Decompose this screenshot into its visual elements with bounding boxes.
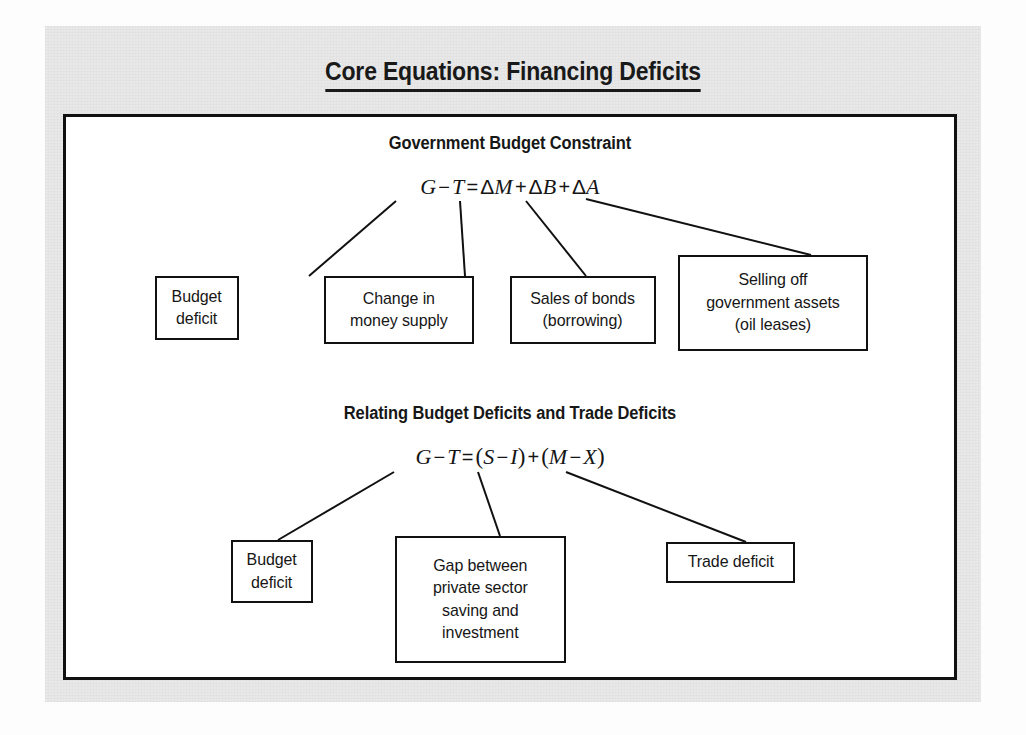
node-gap-line-3: saving and: [433, 600, 528, 622]
node-budget-deficit-2-line-2: deficit: [247, 572, 297, 594]
node-gap-line-2: private sector: [433, 577, 528, 599]
node-budget-deficit-2-line-1: Budget: [247, 549, 297, 571]
node-change-money-supply-line-2: money supply: [350, 310, 448, 332]
figure-frame: Government Budget Constraint G−T=ΔM+ΔB+Δ…: [63, 114, 957, 680]
node-trade-deficit: Trade deficit: [666, 542, 795, 583]
node-sales-of-bonds-line-1: Sales of bonds: [531, 288, 636, 310]
node-gap-line-4: investment: [433, 622, 528, 644]
figure-title: Core Equations: Financing Deficits: [82, 57, 943, 92]
node-selling-assets-line-1: Selling off: [706, 269, 840, 291]
node-gap-line-1: Gap between: [433, 555, 528, 577]
node-change-money-supply-line-1: Change in: [350, 288, 448, 310]
connector-m-x-to-trade-deficit: [566, 472, 746, 542]
node-sales-of-bonds-line-2: (borrowing): [531, 310, 636, 332]
connector-s-i-to-gap: [478, 472, 500, 536]
connector-da-to-assets: [586, 199, 811, 255]
connector-dm-to-money-supply: [460, 201, 465, 276]
figure-title-text: Core Equations: Financing Deficits: [325, 57, 701, 92]
node-budget-deficit-1-line-1: Budget: [172, 286, 222, 308]
node-change-money-supply: Change in money supply: [324, 276, 474, 344]
connector-g-t-to-budget-deficit: [309, 201, 396, 276]
node-budget-deficit-1: Budget deficit: [155, 276, 239, 340]
node-selling-assets-line-3: (oil leases): [706, 314, 840, 336]
node-sales-of-bonds: Sales of bonds (borrowing): [510, 276, 656, 344]
diagram-canvas: Government Budget Constraint G−T=ΔM+ΔB+Δ…: [66, 117, 954, 677]
connector-g-t-to-budget-deficit-2: [278, 472, 394, 540]
node-budget-deficit-1-line-2: deficit: [172, 308, 222, 330]
connector-db-to-bonds: [526, 201, 586, 276]
node-gap-private-sector-saving-investment: Gap between private sector saving and in…: [395, 536, 566, 663]
node-trade-deficit-line-1: Trade deficit: [687, 551, 773, 573]
node-budget-deficit-2: Budget deficit: [231, 540, 313, 603]
scanned-page: Core Equations: Financing Deficits Gover…: [0, 0, 1026, 735]
node-selling-assets-line-2: government assets: [706, 292, 840, 314]
node-selling-government-assets: Selling off government assets (oil lease…: [678, 255, 868, 351]
